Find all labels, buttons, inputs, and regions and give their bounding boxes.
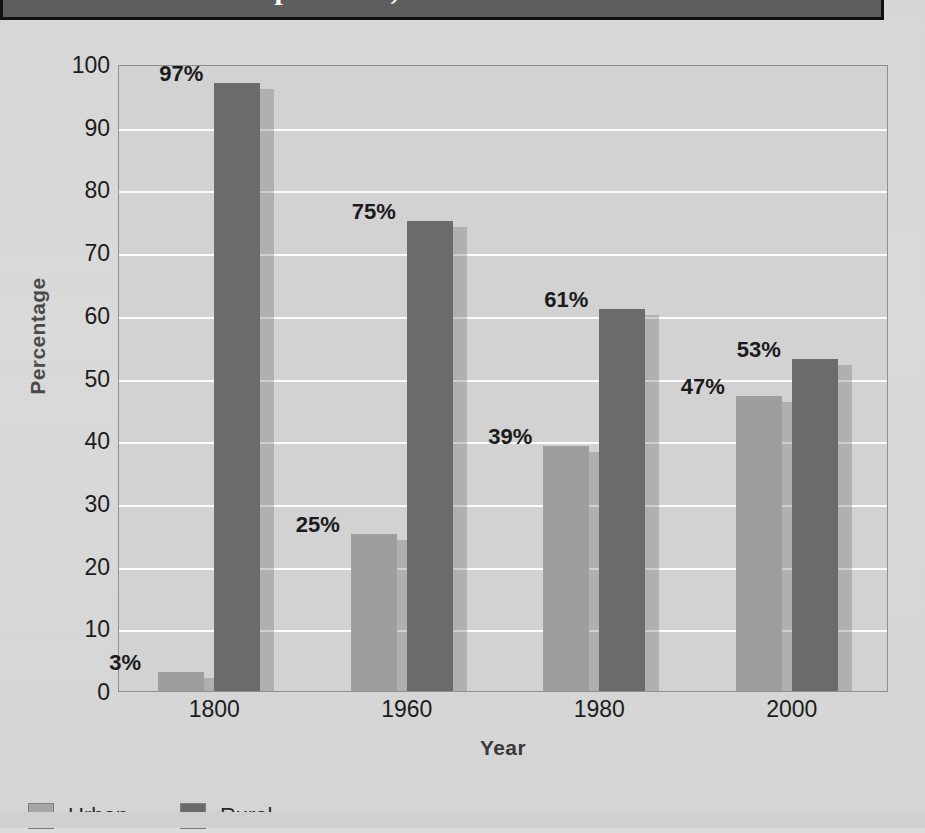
page-bottom-strip <box>0 812 925 828</box>
x-axis-tick-label: 1800 <box>134 696 294 723</box>
y-axis-tick-label: 100 <box>54 52 110 79</box>
bar-shadow <box>453 227 467 691</box>
y-axis-tick-label: 20 <box>54 554 110 581</box>
bar-value-label: 47% <box>664 374 742 400</box>
bar-rural-1980[interactable] <box>599 309 645 691</box>
bar-urban-1960[interactable] <box>351 534 397 691</box>
y-axis-ticks: 0102030405060708090100 <box>46 65 110 692</box>
plot-area: 3%97%25%75%39%61%47%53% <box>118 65 888 692</box>
y-axis-tick-label: 60 <box>54 303 110 330</box>
x-axis-tick-label: 2000 <box>712 696 872 723</box>
y-axis-tick-label: 70 <box>54 240 110 267</box>
y-axis-tick-label: 80 <box>54 177 110 204</box>
x-axis-ticks: 1800196019802000 <box>118 696 888 730</box>
bar-value-label: 75% <box>335 199 413 225</box>
chart-title-banner: Urban and Rural Populations, 1800-2000 <box>0 0 884 20</box>
bar-value-label: 53% <box>720 337 798 363</box>
y-axis-tick-label: 0 <box>54 679 110 706</box>
bar-value-label: 61% <box>527 287 605 313</box>
y-axis-tick-label: 40 <box>54 428 110 455</box>
y-axis-tick-label: 90 <box>54 115 110 142</box>
bar-value-label: 3% <box>86 650 164 676</box>
y-axis-tick-label: 30 <box>54 491 110 518</box>
bar-urban-1980[interactable] <box>543 446 589 691</box>
bar-value-label: 25% <box>279 512 357 538</box>
x-axis-tick-label: 1980 <box>519 696 679 723</box>
bar-shadow <box>645 315 659 691</box>
bar-rural-1960[interactable] <box>407 221 453 691</box>
bar-urban-2000[interactable] <box>736 396 782 691</box>
y-axis-tick-label: 10 <box>54 616 110 643</box>
bar-shadow <box>838 365 852 691</box>
bar-rural-2000[interactable] <box>792 359 838 691</box>
bar-rural-1800[interactable] <box>214 83 260 691</box>
y-axis-tick-label: 50 <box>54 366 110 393</box>
bar-urban-1800[interactable] <box>158 672 204 691</box>
bar-value-label: 97% <box>142 61 220 87</box>
x-axis-tick-label: 1960 <box>327 696 487 723</box>
bar-chart: Percentage 0102030405060708090100 3%97%2… <box>0 24 925 828</box>
bar-value-label: 39% <box>471 424 549 450</box>
x-axis-label: Year <box>118 736 888 760</box>
bar-shadow <box>260 89 274 691</box>
chart-title: Urban and Rural Populations, 1800-2000 <box>17 0 533 6</box>
